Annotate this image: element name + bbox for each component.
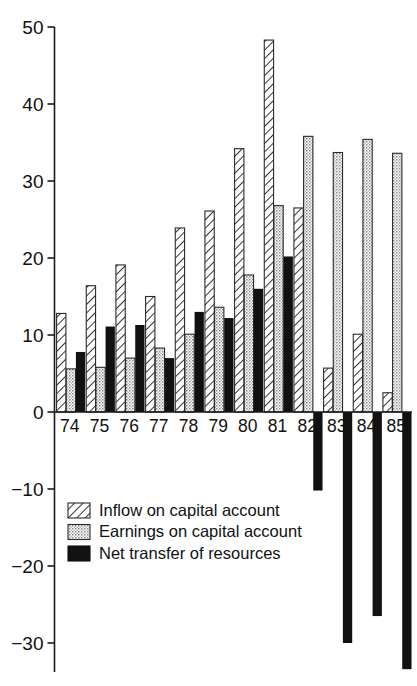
bar-74-solid-black [76,352,85,412]
x-tick-label: 75 [90,416,109,436]
bar-81-diagonal-hatch [264,40,273,412]
x-tick-label: 81 [268,416,287,436]
legend-label: Earnings on capital account [99,522,302,540]
bar-79-diagonal-hatch [205,211,214,412]
bars-layer [57,40,412,669]
x-tick-label: 74 [60,416,80,436]
x-tick-label: 84 [357,416,377,436]
y-tick-label: 40 [22,94,43,115]
x-tick-label: 80 [238,416,258,436]
bar-76-stipple-dots [126,358,135,412]
y-tick-label: 10 [22,325,43,346]
x-axis-tick-labels: 747576777879808182838485 [60,416,406,436]
legend-swatch-diagonal-hatch-swatch [68,503,90,518]
bar-78-stipple-dots [185,334,194,412]
bar-79-solid-black [224,318,233,412]
bar-chart-figure: 50403020100−10−20−30 7475767778798081828… [0,0,417,686]
y-tick-label: −30 [11,633,43,654]
bar-77-stipple-dots [155,348,164,412]
bar-78-solid-black [195,312,204,412]
bar-85-solid-black [402,412,411,669]
x-tick-label: 79 [208,416,227,436]
x-tick-label: 82 [297,416,316,436]
legend-swatch-solid-black-swatch [68,546,90,561]
x-tick-label: 83 [327,416,346,436]
bar-83-diagonal-hatch [324,368,333,412]
y-tick-label: 50 [22,17,43,38]
bar-82-diagonal-hatch [294,208,303,412]
bar-80-solid-black [254,289,263,412]
bar-74-diagonal-hatch [57,313,66,412]
y-tick-label: 20 [22,248,43,269]
bar-75-solid-black [106,327,115,412]
bar-76-solid-black [135,325,144,412]
bar-75-diagonal-hatch [86,286,95,412]
chart-canvas: 50403020100−10−20−30 7475767778798081828… [0,0,417,686]
bar-75-stipple-dots [96,367,105,412]
bar-77-solid-black [165,358,174,412]
x-tick-label: 78 [179,416,198,436]
bar-84-stipple-dots [363,139,372,412]
bar-82-stipple-dots [304,136,313,412]
legend-label: Inflow on capital account [99,501,280,519]
bar-74-stipple-dots [66,369,75,412]
y-tick-label: 30 [22,171,43,192]
bar-84-solid-black [373,412,382,616]
bar-76-diagonal-hatch [116,265,125,412]
y-tick-label: 0 [33,402,44,423]
legend-swatch-stipple-dots-swatch [68,525,90,540]
bar-79-stipple-dots [215,307,224,412]
bar-78-diagonal-hatch [175,228,184,412]
chart-legend: Inflow on capital accountEarnings on cap… [68,501,302,562]
bar-81-stipple-dots [274,206,283,412]
y-axis-tick-labels: 50403020100−10−20−30 [11,17,54,654]
y-tick-label: −20 [11,556,43,577]
x-tick-label: 77 [149,416,168,436]
bar-80-stipple-dots [244,275,253,412]
bar-84-diagonal-hatch [353,334,362,412]
bar-83-solid-black [343,412,352,643]
bar-77-diagonal-hatch [146,297,155,413]
x-tick-label: 76 [119,416,138,436]
bar-83-stipple-dots [333,153,342,412]
bar-80-diagonal-hatch [235,149,244,412]
bar-85-diagonal-hatch [383,393,392,412]
bar-81-solid-black [284,256,293,412]
bar-85-stipple-dots [393,153,402,412]
legend-label: Net transfer of resources [99,544,281,562]
x-tick-label: 85 [386,416,405,436]
y-tick-label: −10 [11,479,43,500]
